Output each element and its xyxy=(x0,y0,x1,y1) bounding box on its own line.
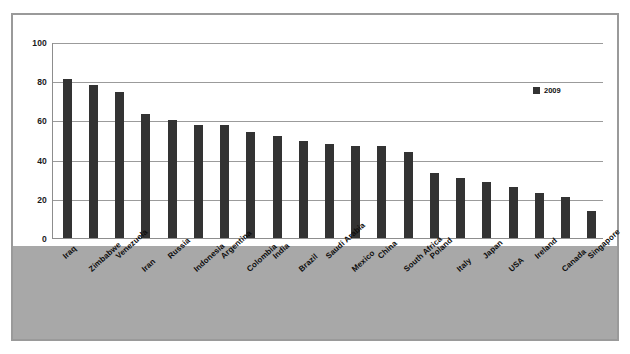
bar-japan xyxy=(482,182,491,238)
bar-china xyxy=(377,146,386,238)
y-tick-label-0: 0 xyxy=(42,234,47,244)
chart-frame: 020406080100 2009 IraqZimbabweVenezuelaI… xyxy=(11,13,619,341)
bar-canada xyxy=(561,197,570,238)
bar-iraq xyxy=(63,79,72,238)
plot-area xyxy=(52,43,603,239)
y-tick-label-80: 80 xyxy=(37,77,47,87)
bar-ireland xyxy=(535,193,544,238)
bar-poland xyxy=(430,173,439,238)
bar-usa xyxy=(509,187,518,238)
bar-iran xyxy=(141,114,150,238)
bar-singapore xyxy=(587,211,596,238)
y-tick-label-20: 20 xyxy=(37,195,47,205)
legend-label-2009: 2009 xyxy=(544,86,561,95)
bar-colombia xyxy=(246,132,255,238)
bar-italy xyxy=(456,178,465,238)
legend-swatch-2009 xyxy=(533,87,540,94)
y-tick-label-40: 40 xyxy=(37,156,47,166)
bar-indonesia xyxy=(194,125,203,238)
bar-india xyxy=(273,136,282,238)
bar-brazil xyxy=(299,141,308,238)
bar-saudi-arabia xyxy=(325,144,334,238)
bars-layer xyxy=(53,43,603,238)
y-tick-label-60: 60 xyxy=(37,116,47,126)
chart-legend: 2009 xyxy=(533,86,561,95)
bar-argentina xyxy=(220,125,229,238)
bar-south-africa xyxy=(404,152,413,238)
y-axis-tick-labels: 020406080100 xyxy=(13,43,47,239)
bar-venezuela xyxy=(115,92,124,238)
bar-russia xyxy=(168,120,177,238)
chart-screenshot: 020406080100 2009 IraqZimbabweVenezuelaI… xyxy=(0,0,630,354)
bar-zimbabwe xyxy=(89,85,98,238)
y-tick-label-100: 100 xyxy=(32,38,47,48)
